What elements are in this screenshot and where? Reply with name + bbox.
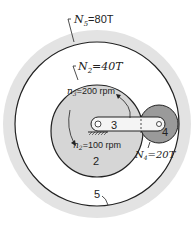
pivot-planet-icon (157, 122, 162, 127)
label-n2: N2=40T (77, 60, 124, 75)
label-member-2: 2 (93, 155, 99, 167)
label-member-4: 4 (162, 126, 168, 138)
pivot-center-icon (95, 121, 101, 127)
planetary-gear-diagram: N5=80T N2=40T n3=200 rpm n2=100 rpm N4=2… (0, 0, 193, 227)
arm-3 (91, 117, 165, 131)
label-member-3: 3 (111, 119, 117, 131)
label-n4: N4=20T (134, 149, 177, 161)
label-member-5: 5 (94, 188, 100, 200)
label-n5: N5=80T (73, 13, 114, 28)
